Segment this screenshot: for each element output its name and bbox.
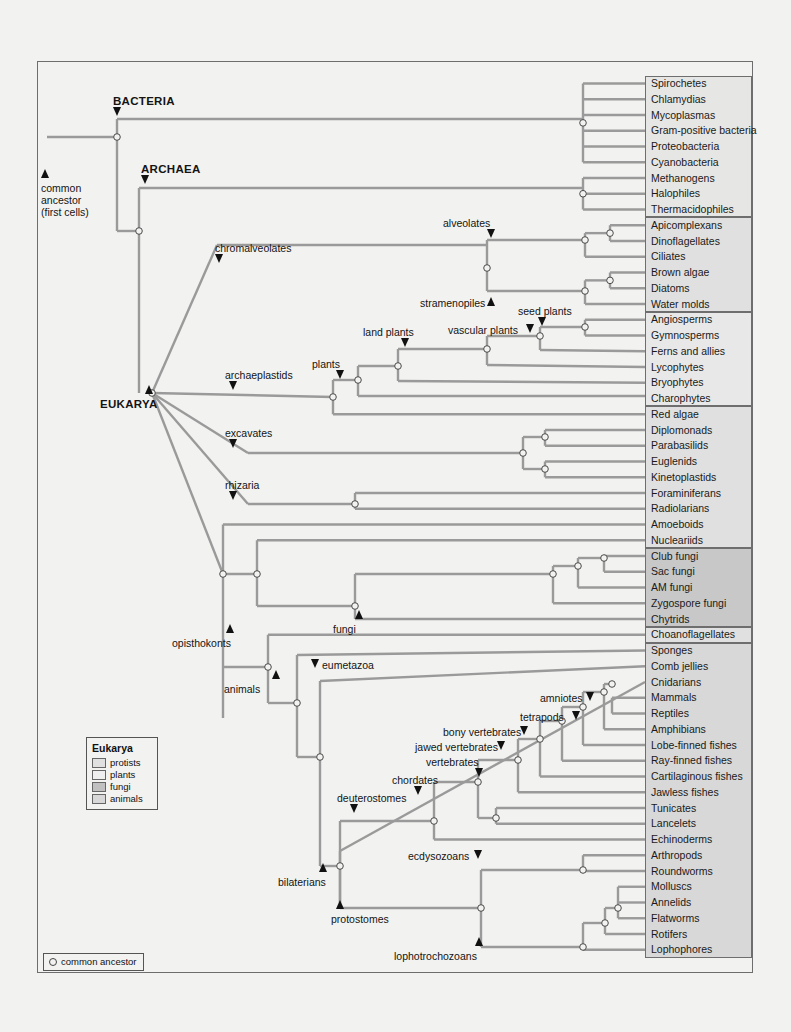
clade-marker-bacteria-icon xyxy=(113,107,121,116)
taxon-label: Rotifers xyxy=(651,929,687,940)
clade-label-archaea: ARCHAEA xyxy=(141,163,201,175)
clade-label-archaeplastids: archaeplastids xyxy=(225,369,293,381)
legend-label-fungi: fungi xyxy=(110,781,131,792)
taxon-label: Lancelets xyxy=(651,818,696,829)
legend-label-protists: protists xyxy=(110,757,141,768)
common-ancestor-key: common ancestor xyxy=(43,953,144,971)
common-ancestor-node xyxy=(537,333,544,340)
common-ancestor-node xyxy=(254,571,261,578)
taxon-label: Nucleariids xyxy=(651,535,703,546)
clade-marker-excavates-icon xyxy=(229,439,237,448)
taxon-label: Gram-positive bacteria xyxy=(651,125,757,136)
clade-marker-eukarya-icon xyxy=(145,385,153,394)
clade-label-eukarya: EUKARYA xyxy=(100,398,157,410)
taxon-label: Diatoms xyxy=(651,283,690,294)
common-ancestor-node xyxy=(136,228,143,235)
taxon-label: Echinoderms xyxy=(651,834,712,845)
common-ancestor-node xyxy=(580,190,587,197)
taxon-label: Halophiles xyxy=(651,188,700,199)
clade-marker-deuterostomes-icon xyxy=(350,804,358,813)
taxon-label: Ray-finned fishes xyxy=(651,755,732,766)
taxon-label: Spirochetes xyxy=(651,78,706,89)
taxon-label: Angiosperms xyxy=(651,314,712,325)
clade-marker-animals-icon xyxy=(272,670,280,679)
common-ancestor-node xyxy=(515,757,522,764)
common-ancestor-node xyxy=(493,815,500,822)
clade-marker-land-plants-icon xyxy=(401,338,409,347)
legend-title: Eukarya xyxy=(92,742,152,754)
clade-label-land-plants: land plants xyxy=(363,326,414,338)
common-ancestor-node xyxy=(582,288,589,295)
clade-label-ecdysozoans: ecdysozoans xyxy=(408,850,469,862)
common-ancestor-node xyxy=(478,905,485,912)
common-ancestor-node xyxy=(294,700,301,707)
common-ancestor-node xyxy=(580,867,587,874)
common-ancestor-key-label: common ancestor xyxy=(61,956,137,967)
common-ancestor-node xyxy=(601,689,608,696)
taxon-label: Mammals xyxy=(651,692,697,703)
clade-marker-vascular-plants-icon xyxy=(526,324,534,333)
clade-label-bony-vertebrates: bony vertebrates xyxy=(443,726,521,738)
taxon-label: Mycoplasmas xyxy=(651,110,715,121)
clade-label-stramenopiles: stramenopiles xyxy=(420,297,485,309)
common-ancestor-node xyxy=(520,450,527,457)
taxon-label: Arthropods xyxy=(651,850,702,861)
taxon-label: Radiolarians xyxy=(651,503,709,514)
clade-label-animals: animals xyxy=(224,683,260,695)
clade-marker-plants-icon xyxy=(336,370,344,379)
clade-label-chromalveolates: chromalveolates xyxy=(215,242,291,254)
taxon-label: Kinetoplastids xyxy=(651,472,716,483)
taxon-label: Annelids xyxy=(651,897,691,908)
clade-label-vascular-plants: vascular plants xyxy=(448,324,518,336)
taxon-label: Reptiles xyxy=(651,708,689,719)
taxon-label: Lycophytes xyxy=(651,362,704,373)
taxon-label: Club fungi xyxy=(651,551,698,562)
clade-marker-opisthokonts-icon xyxy=(226,624,234,633)
clade-marker-chromalveolates-icon xyxy=(215,254,223,263)
tree-branches xyxy=(47,84,645,950)
common-ancestor-node xyxy=(615,905,622,912)
taxon-label: Tunicates xyxy=(651,803,696,814)
legend-item-animals: animals xyxy=(92,793,152,804)
root-label-line1: common xyxy=(41,182,81,194)
common-ancestor-node xyxy=(602,920,609,927)
taxon-label: Dinoflagellates xyxy=(651,236,720,247)
clade-marker-archaeplastids-icon xyxy=(229,381,237,390)
clade-marker-rhizaria-icon xyxy=(229,491,237,500)
taxon-label: Apicomplexans xyxy=(651,220,722,231)
common-ancestor-node xyxy=(395,363,402,370)
clade-marker-jawed-vertebrates-icon xyxy=(497,741,505,750)
taxon-label: Chlamydias xyxy=(651,94,706,105)
common-ancestor-node xyxy=(337,863,344,870)
eukarya-legend: Eukarya protists plants fungi animals xyxy=(86,737,158,810)
common-ancestor-marker-icon xyxy=(41,169,49,178)
clade-marker-vertebrates-icon xyxy=(475,768,483,777)
common-ancestor-node xyxy=(220,571,227,578)
taxon-label: Sac fungi xyxy=(651,566,695,577)
taxon-label: Zygospore fungi xyxy=(651,598,726,609)
clade-marker-ecdysozoans-icon xyxy=(474,850,482,859)
clade-marker-fungi-icon xyxy=(355,610,363,619)
taxon-label: Ferns and allies xyxy=(651,346,725,357)
taxon-label: Amoeboids xyxy=(651,519,704,530)
phylogenetic-tree xyxy=(0,0,791,1032)
common-ancestor-node xyxy=(580,944,587,951)
taxon-label: Euglenids xyxy=(651,456,697,467)
common-ancestor-node xyxy=(484,265,491,272)
taxon-label: Roundworms xyxy=(651,866,713,877)
common-ancestor-node xyxy=(609,681,616,688)
common-ancestor-node xyxy=(114,134,121,141)
common-ancestor-node xyxy=(607,230,614,237)
clade-label-eumetazoa: eumetazoa xyxy=(322,659,374,671)
clade-label-fungi: fungi xyxy=(333,623,356,635)
taxon-label: Diplomonads xyxy=(651,425,712,436)
common-ancestor-node xyxy=(575,563,582,570)
taxon-label: Comb jellies xyxy=(651,661,708,672)
taxon-label: Sponges xyxy=(651,645,692,656)
legend-swatch-animals xyxy=(92,794,106,804)
taxon-label: Lobe-finned fishes xyxy=(651,740,737,751)
common-ancestor-node xyxy=(542,466,549,473)
clade-label-amniotes: amniotes xyxy=(540,692,583,704)
clade-marker-lophotrochozoans-icon xyxy=(475,937,483,946)
legend-swatch-plants xyxy=(92,770,106,780)
